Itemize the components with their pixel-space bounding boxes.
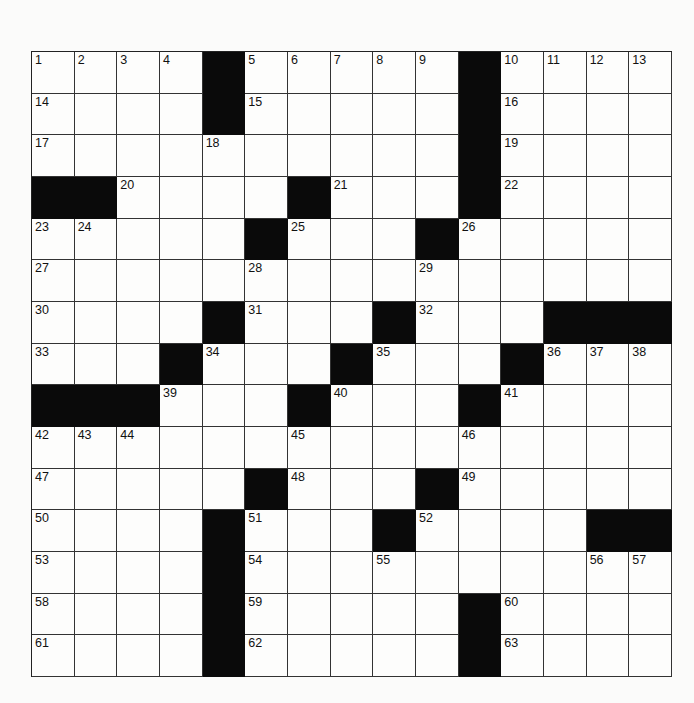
grid-cell[interactable] xyxy=(459,510,502,552)
grid-cell[interactable]: 35 xyxy=(373,344,416,386)
grid-cell[interactable]: 33 xyxy=(32,344,75,386)
grid-cell[interactable]: 29 xyxy=(416,260,459,302)
grid-cell[interactable]: 28 xyxy=(245,260,288,302)
grid-cell[interactable] xyxy=(331,510,374,552)
grid-cell[interactable] xyxy=(160,427,203,469)
grid-cell[interactable] xyxy=(160,260,203,302)
grid-cell[interactable] xyxy=(459,302,502,344)
grid-cell[interactable]: 31 xyxy=(245,302,288,344)
grid-cell[interactable] xyxy=(331,635,374,677)
grid-cell[interactable] xyxy=(117,135,160,177)
grid-cell[interactable] xyxy=(160,552,203,594)
grid-cell[interactable]: 59 xyxy=(245,594,288,636)
grid-cell[interactable] xyxy=(629,469,672,511)
grid-cell[interactable]: 58 xyxy=(32,594,75,636)
grid-cell[interactable] xyxy=(288,94,331,136)
grid-cell[interactable] xyxy=(544,177,587,219)
grid-cell[interactable]: 60 xyxy=(501,594,544,636)
grid-cell[interactable] xyxy=(544,510,587,552)
grid-cell[interactable]: 44 xyxy=(117,427,160,469)
grid-cell[interactable] xyxy=(160,594,203,636)
grid-cell[interactable] xyxy=(416,552,459,594)
grid-cell[interactable] xyxy=(117,469,160,511)
grid-cell[interactable]: 37 xyxy=(587,344,630,386)
grid-cell[interactable]: 9 xyxy=(416,52,459,94)
grid-cell[interactable] xyxy=(117,260,160,302)
grid-cell[interactable]: 22 xyxy=(501,177,544,219)
grid-cell[interactable] xyxy=(331,94,374,136)
grid-cell[interactable] xyxy=(331,219,374,261)
grid-cell[interactable]: 3 xyxy=(117,52,160,94)
grid-cell[interactable]: 1 xyxy=(32,52,75,94)
grid-cell[interactable]: 7 xyxy=(331,52,374,94)
grid-cell[interactable] xyxy=(587,427,630,469)
grid-cell[interactable] xyxy=(288,510,331,552)
grid-cell[interactable] xyxy=(75,135,118,177)
grid-cell[interactable] xyxy=(416,177,459,219)
grid-cell[interactable]: 53 xyxy=(32,552,75,594)
grid-cell[interactable]: 45 xyxy=(288,427,331,469)
grid-cell[interactable]: 55 xyxy=(373,552,416,594)
grid-cell[interactable] xyxy=(501,510,544,552)
grid-cell[interactable] xyxy=(416,635,459,677)
grid-cell[interactable]: 14 xyxy=(32,94,75,136)
grid-cell[interactable]: 63 xyxy=(501,635,544,677)
grid-cell[interactable]: 40 xyxy=(331,385,374,427)
grid-cell[interactable] xyxy=(501,302,544,344)
grid-cell[interactable]: 12 xyxy=(587,52,630,94)
grid-cell[interactable] xyxy=(416,594,459,636)
grid-cell[interactable] xyxy=(629,594,672,636)
grid-cell[interactable] xyxy=(544,635,587,677)
grid-cell[interactable] xyxy=(629,260,672,302)
grid-cell[interactable]: 24 xyxy=(75,219,118,261)
grid-cell[interactable] xyxy=(373,260,416,302)
grid-cell[interactable]: 56 xyxy=(587,552,630,594)
grid-cell[interactable] xyxy=(373,135,416,177)
grid-cell[interactable] xyxy=(288,552,331,594)
grid-cell[interactable] xyxy=(160,635,203,677)
grid-cell[interactable]: 10 xyxy=(501,52,544,94)
grid-cell[interactable] xyxy=(117,594,160,636)
grid-cell[interactable] xyxy=(117,219,160,261)
grid-cell[interactable] xyxy=(587,135,630,177)
grid-cell[interactable] xyxy=(288,302,331,344)
grid-cell[interactable]: 30 xyxy=(32,302,75,344)
grid-cell[interactable] xyxy=(117,552,160,594)
grid-cell[interactable] xyxy=(544,219,587,261)
grid-cell[interactable] xyxy=(587,260,630,302)
grid-cell[interactable]: 51 xyxy=(245,510,288,552)
grid-cell[interactable]: 42 xyxy=(32,427,75,469)
grid-cell[interactable] xyxy=(331,135,374,177)
grid-cell[interactable] xyxy=(160,94,203,136)
grid-cell[interactable]: 54 xyxy=(245,552,288,594)
grid-cell[interactable] xyxy=(117,344,160,386)
grid-cell[interactable] xyxy=(459,552,502,594)
grid-cell[interactable]: 32 xyxy=(416,302,459,344)
grid-cell[interactable] xyxy=(544,427,587,469)
grid-cell[interactable] xyxy=(75,510,118,552)
grid-cell[interactable]: 25 xyxy=(288,219,331,261)
grid-cell[interactable] xyxy=(587,177,630,219)
grid-cell[interactable]: 41 xyxy=(501,385,544,427)
grid-cell[interactable]: 27 xyxy=(32,260,75,302)
grid-cell[interactable] xyxy=(373,219,416,261)
grid-cell[interactable] xyxy=(544,260,587,302)
grid-cell[interactable] xyxy=(373,427,416,469)
grid-cell[interactable] xyxy=(75,469,118,511)
grid-cell[interactable] xyxy=(587,469,630,511)
grid-cell[interactable] xyxy=(288,260,331,302)
grid-cell[interactable] xyxy=(245,427,288,469)
grid-cell[interactable] xyxy=(416,385,459,427)
grid-cell[interactable] xyxy=(544,94,587,136)
grid-cell[interactable] xyxy=(117,94,160,136)
grid-cell[interactable] xyxy=(288,135,331,177)
grid-cell[interactable]: 5 xyxy=(245,52,288,94)
grid-cell[interactable] xyxy=(501,552,544,594)
grid-cell[interactable] xyxy=(373,94,416,136)
grid-cell[interactable] xyxy=(629,135,672,177)
grid-cell[interactable]: 20 xyxy=(117,177,160,219)
grid-cell[interactable] xyxy=(459,344,502,386)
grid-cell[interactable] xyxy=(331,594,374,636)
grid-cell[interactable] xyxy=(629,219,672,261)
grid-cell[interactable] xyxy=(117,510,160,552)
